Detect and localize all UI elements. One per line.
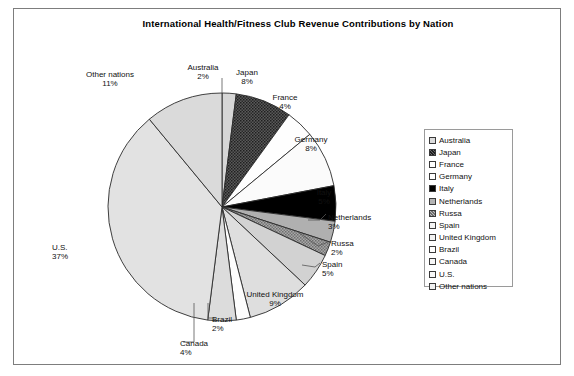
slice-label-other-nations: Other nations11% xyxy=(70,70,150,89)
legend-swatch-spain xyxy=(429,222,436,229)
legend-label: Italy xyxy=(439,184,454,193)
legend-label: Other nations xyxy=(439,282,487,291)
legend-label: Japan xyxy=(439,148,461,157)
legend-label: Germany xyxy=(439,172,472,181)
legend-item-russa[interactable]: Russa xyxy=(429,207,512,219)
legend-swatch-netherlands xyxy=(429,198,436,205)
slice-label-name: Canada xyxy=(180,339,208,348)
slice-label-percent: 8% xyxy=(207,77,287,86)
legend-label: Australia xyxy=(439,136,470,145)
slice-label-name: Spain xyxy=(322,260,342,269)
slice-label-name: Netherlands xyxy=(328,213,371,222)
legend: AustraliaJapanFranceGermanyItalyNetherla… xyxy=(424,129,513,287)
slice-label-percent: 3% xyxy=(328,222,371,231)
legend-label: Russa xyxy=(439,209,462,218)
pie-slices xyxy=(108,93,336,321)
slice-label-spain: Spain5% xyxy=(322,260,342,279)
legend-item-spain[interactable]: Spain xyxy=(429,219,512,231)
slice-label-russa: Russa2% xyxy=(331,239,354,258)
legend-swatch-germany xyxy=(429,173,436,180)
slice-label-name: Russa xyxy=(331,239,354,248)
legend-item-italy[interactable]: Italy xyxy=(429,183,512,195)
legend-swatch-canada xyxy=(429,258,436,265)
legend-item-germany[interactable]: Germany xyxy=(429,171,512,183)
slice-label-name: Germany xyxy=(295,135,328,144)
legend-swatch-australia xyxy=(429,137,436,144)
slice-label-france: France4% xyxy=(245,93,325,112)
legend-swatch-united-kingdom xyxy=(429,234,436,241)
legend-label: Brazil xyxy=(439,245,459,254)
legend-label: France xyxy=(439,160,464,169)
slice-label-percent: 37% xyxy=(52,252,68,261)
slice-label-percent: 4% xyxy=(180,348,208,357)
legend-swatch-italy xyxy=(429,185,436,192)
legend-item-france[interactable]: France xyxy=(429,158,512,170)
slice-label-percent: 2% xyxy=(331,248,354,257)
slice-label-canada: Canada4% xyxy=(180,339,208,358)
legend-swatch-other-nations xyxy=(429,283,436,290)
legend-item-united-kingdom[interactable]: United Kingdom xyxy=(429,232,512,244)
slice-label-percent: 8% xyxy=(271,144,351,153)
slice-label-japan: Japan8% xyxy=(207,68,287,87)
slice-label-netherlands: Netherlands3% xyxy=(328,213,371,232)
legend-item-canada[interactable]: Canada xyxy=(429,256,512,268)
slice-label-name: France xyxy=(273,93,298,102)
slice-label-italy: Italy5% xyxy=(284,188,364,207)
slice-label-percent: 5% xyxy=(284,197,364,206)
slice-label-percent: 9% xyxy=(235,299,315,308)
legend-swatch-brazil xyxy=(429,246,436,253)
legend-label: Netherlands xyxy=(439,197,482,206)
slice-label-percent: 5% xyxy=(322,269,342,278)
legend-item-u-s[interactable]: U.S. xyxy=(429,268,512,280)
legend-label: U.S. xyxy=(439,270,455,279)
legend-label: United Kingdom xyxy=(439,233,496,242)
slice-label-name: Brazil xyxy=(212,315,232,324)
legend-label: Canada xyxy=(439,257,467,266)
slice-label-name: Other nations xyxy=(86,70,134,79)
legend-item-brazil[interactable]: Brazil xyxy=(429,244,512,256)
slice-label-germany: Germany8% xyxy=(271,135,351,154)
slice-label-us: U.S.37% xyxy=(52,243,68,262)
legend-swatch-france xyxy=(429,161,436,168)
slice-label-name: United Kingdom xyxy=(247,290,304,299)
legend-item-netherlands[interactable]: Netherlands xyxy=(429,195,512,207)
slice-label-percent: 11% xyxy=(70,79,150,88)
slice-label-name: U.S. xyxy=(52,243,68,252)
legend-swatch-russa xyxy=(429,210,436,217)
legend-item-other-nations[interactable]: Other nations xyxy=(429,280,512,292)
legend-item-japan[interactable]: Japan xyxy=(429,146,512,158)
legend-swatch-japan xyxy=(429,149,436,156)
slice-label-name: Italy xyxy=(317,188,332,197)
legend-label: Spain xyxy=(439,221,459,230)
legend-swatch-u-s xyxy=(429,271,436,278)
slice-label-name: Japan xyxy=(236,68,258,77)
slice-label-percent: 4% xyxy=(245,102,325,111)
slice-label-brazil: Brazil2% xyxy=(212,315,232,334)
slice-label-united-kingdom: United Kingdom9% xyxy=(235,290,315,309)
legend-item-australia[interactable]: Australia xyxy=(429,134,512,146)
slice-label-percent: 2% xyxy=(212,324,232,333)
